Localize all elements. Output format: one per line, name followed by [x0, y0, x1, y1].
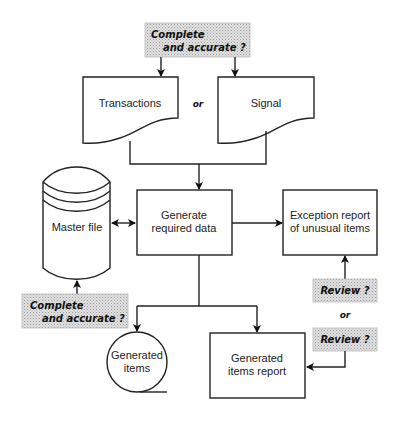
svg-text:items report: items report	[228, 365, 286, 377]
review-callout-exception: Review ?	[313, 279, 377, 302]
svg-text:Master file: Master file	[52, 221, 103, 233]
svg-text:Exception report: Exception report	[290, 209, 370, 221]
svg-text:Generated: Generated	[111, 349, 163, 361]
review-callout-generated-report: Review ?	[313, 328, 377, 351]
svg-text:of unusual items: of unusual items	[290, 222, 371, 234]
top-completeness-callout: Complete and accurate ?	[145, 23, 250, 57]
svg-text:items: items	[124, 362, 151, 374]
svg-text:Signal: Signal	[251, 97, 282, 109]
svg-text:and accurate ?: and accurate ?	[42, 313, 125, 324]
master-file-cylinder: Master file	[43, 167, 110, 279]
svg-text:Review ?: Review ?	[320, 334, 369, 345]
transactions-document: Transactions	[83, 77, 178, 143]
svg-text:Generate: Generate	[161, 209, 207, 221]
generated-items-report-box: Generated items report	[210, 333, 305, 398]
master-completeness-callout: Complete and accurate ?	[22, 294, 128, 328]
svg-text:Complete: Complete	[151, 29, 205, 40]
exception-report-box: Exception report of unusual items	[283, 190, 377, 255]
arrow-review-to-generated-report	[307, 351, 345, 367]
svg-text:Complete: Complete	[30, 300, 84, 311]
svg-text:Review ?: Review ?	[320, 285, 369, 296]
or-label-review: or	[340, 310, 351, 320]
svg-text:required data: required data	[152, 222, 218, 234]
svg-text:and accurate ?: and accurate ?	[163, 42, 246, 53]
generated-items-tape: Generated items	[107, 332, 167, 392]
or-label-inputs: or	[193, 99, 204, 109]
flowchart-canvas: Complete and accurate ? Transactions or …	[0, 0, 397, 423]
generate-data-process: Generate required data	[137, 190, 232, 255]
svg-text:Transactions: Transactions	[99, 97, 162, 109]
svg-text:Generated: Generated	[231, 352, 283, 364]
